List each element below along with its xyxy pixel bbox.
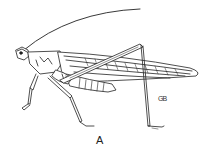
front-leg <box>30 74 38 90</box>
hind-leg-tibia <box>141 45 150 126</box>
antenna <box>24 9 140 50</box>
grasshopper-illustration <box>0 0 217 152</box>
artist-signature: GB <box>158 95 166 102</box>
figure-label: A <box>96 134 103 146</box>
grasshopper-drawing <box>0 0 217 152</box>
